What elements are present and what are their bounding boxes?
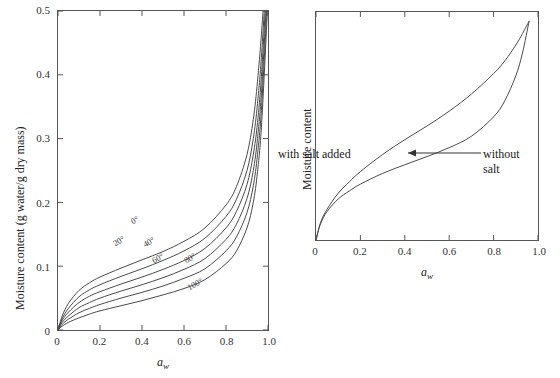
left-xaxis-subscript: w xyxy=(163,361,169,371)
arrow-without-salt-to-curve xyxy=(408,150,481,157)
left-yaxis-title: Moisture content (g water/g dry mass) xyxy=(14,126,26,310)
curve-0° xyxy=(58,0,268,330)
left-xtick-0.4: 0.4 xyxy=(135,336,149,347)
left-xtick-0: 0 xyxy=(54,336,60,347)
plot-area-left xyxy=(57,10,269,331)
left-xtick-0.2: 0.2 xyxy=(93,336,107,347)
curve-80° xyxy=(58,0,268,330)
left-curves-svg xyxy=(58,11,268,330)
panel-right-salt-comparison: 0 0.2 0.4 0.6 0.8 1.0 aw Moisture conten… xyxy=(285,0,560,378)
annotation-arrow-svg xyxy=(285,0,560,378)
curve-100° xyxy=(58,0,268,330)
panel-left-isotherms: 0 0.1 0.2 0.3 0.4 0.5 0 0.2 0.4 0.6 0.8 … xyxy=(0,0,285,378)
curve-60° xyxy=(58,0,268,330)
left-ytick-0.5: 0.5 xyxy=(22,5,50,16)
left-ytick-0: 0 xyxy=(28,326,50,337)
figure-root: 0 0.1 0.2 0.3 0.4 0.5 0 0.2 0.4 0.6 0.8 … xyxy=(0,0,560,378)
curve-20° xyxy=(58,0,268,330)
left-xtick-0.8: 0.8 xyxy=(220,336,234,347)
left-xtick-0.6: 0.6 xyxy=(177,336,191,347)
curve-40° xyxy=(58,0,268,330)
left-xtick-1.0: 1.0 xyxy=(262,336,276,347)
left-ytick-0.4: 0.4 xyxy=(22,69,50,80)
left-xaxis-title: aw xyxy=(157,356,169,371)
